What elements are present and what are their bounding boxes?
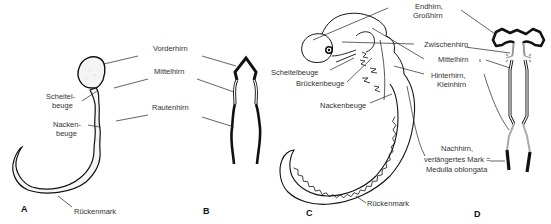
- label-hinterhirn-2: Kleinhirn: [437, 80, 466, 89]
- leader-c-zwischenhirn: [342, 42, 414, 44]
- panel-b-rautenhirn-left: [231, 104, 235, 164]
- leader-c-mittelhirn: [372, 28, 424, 59]
- leader-a-rueckenmark: [58, 196, 72, 207]
- panel-b-rautenhirn-right: [256, 104, 260, 164]
- panel-c-body-outer: [280, 74, 415, 204]
- panel-d-hinterhirn-right: [523, 60, 527, 124]
- label-a-nackenbeuge-2: beuge: [56, 129, 77, 138]
- panel-d-endhirn-wall: [493, 29, 544, 46]
- leader-c-rueckenmark: [356, 196, 366, 203]
- panel-d-zwischenhirn-left: [512, 43, 514, 56]
- label-endhirn-2: Großhirn: [413, 11, 443, 20]
- label-nachhirn-1: Nachhirn,: [441, 144, 473, 153]
- label-mittelhirn-ab: Mittelhirn: [154, 67, 184, 76]
- panel-a-forebrain-bulb: [78, 57, 105, 88]
- panel-c-somites: [294, 117, 396, 198]
- label-a-scheitelbeuge-1: Scheitel-: [46, 92, 76, 101]
- panel-b-schematic: [231, 58, 260, 164]
- label-rautenhirn: Rautenhirn: [152, 103, 189, 112]
- panel-c-lower-head: [332, 50, 356, 62]
- leader-c-nackenbeuge: [370, 94, 392, 103]
- leader-c-brueckenbeuge: [347, 58, 372, 82]
- label-mittelhirn-cd: Mittelhirn: [438, 55, 468, 64]
- label-a-nackenbeuge-1: Nacken-: [53, 120, 81, 129]
- leader-d-endhirn: [461, 10, 495, 34]
- panel-d-rueckenmark-right: [527, 152, 530, 172]
- panel-letter-d: D: [474, 209, 481, 219]
- panel-letter-b: B: [203, 206, 210, 216]
- panel-letter-a: A: [21, 204, 28, 214]
- label-c-scheitelbeuge: Scheitelbeuge: [271, 68, 319, 77]
- leader-d-hinterhirn: [484, 74, 509, 130]
- leader-c-hinterhirn: [394, 66, 424, 74]
- label-c-nackenbeuge: Nackenbeuge: [320, 101, 366, 110]
- leader-a-rautenhirn: [116, 115, 148, 121]
- panel-c-neural-tube: [380, 40, 385, 100]
- panel-c-mittelhirn-bump: [356, 32, 375, 52]
- leader-b-mittelhirn: [197, 79, 234, 92]
- label-c-brueckenbeuge: Brückenbeuge: [296, 79, 344, 88]
- panel-d-hinterhirn-left: [510, 60, 514, 124]
- panel-d-nachhirn-left: [507, 124, 514, 150]
- leader-d-zwischenhirn: [465, 47, 510, 53]
- label-a-rueckenmark: Rückenmark: [74, 207, 116, 216]
- leader-b-rautenhirn: [202, 117, 234, 127]
- panel-d-rueckenmark-left: [507, 150, 509, 170]
- label-vorderhirn: Vorderhirn: [153, 44, 188, 53]
- leader-c-endhirn: [313, 8, 388, 40]
- leader-b-vorderhirn: [202, 56, 236, 66]
- label-c-rueckenmark: Rückenmark: [367, 199, 409, 208]
- leader-a-mittelhirn: [114, 79, 148, 88]
- panel-letter-c: C: [306, 208, 313, 218]
- label-a-scheitelbeuge-2: beuge: [52, 101, 73, 110]
- panel-b-vorderhirn-wall: [235, 58, 256, 80]
- label-zwischenhirn: Zwischenhirn: [424, 40, 468, 49]
- label-hinterhirn-1: Hinterhirn,: [431, 71, 466, 80]
- brain-development-diagram: Scheitel- beuge Nacken- beuge Rückenmark…: [0, 0, 551, 224]
- panel-c-branchial-arches: [360, 52, 380, 92]
- panel-d-nachhirn-right: [523, 124, 530, 152]
- leader-a-vorderhirn: [104, 56, 138, 64]
- label-nachhirn-3: Medulla oblongata: [426, 165, 488, 174]
- panel-d-zwischenhirn-right: [523, 43, 525, 56]
- label-endhirn-1: Endhirn,: [415, 2, 443, 11]
- label-nachhirn-2: verlängertes Mark =: [424, 155, 491, 164]
